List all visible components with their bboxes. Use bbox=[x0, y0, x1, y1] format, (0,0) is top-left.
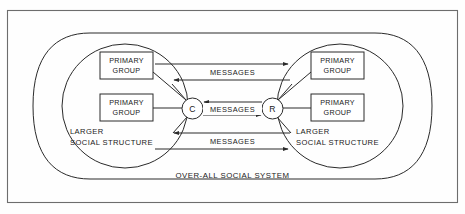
r-node-spoke-bottom bbox=[277, 117, 291, 133]
left-social-structure-label-line1: LARGER bbox=[70, 127, 104, 136]
right-primary-group-1-line2: GROUP bbox=[324, 66, 352, 75]
social-system-diagram: PRIMARY GROUP PRIMARY GROUP PRIMARY GROU… bbox=[0, 0, 465, 214]
c-node-spoke-top bbox=[172, 84, 186, 100]
right-social-structure-label-line2: SOCIAL STRUCTURE bbox=[296, 138, 379, 147]
left-social-structure-label-line2: SOCIAL STRUCTURE bbox=[70, 138, 153, 147]
right-primary-group-1-line1: PRIMARY bbox=[320, 56, 355, 65]
right-primary-group-2-line1: PRIMARY bbox=[320, 98, 355, 107]
recipient-node-label: R bbox=[269, 104, 275, 114]
channel-bottom-label: MESSAGES bbox=[210, 137, 255, 146]
left-primary-group-1-line2: GROUP bbox=[113, 66, 141, 75]
communicator-node-label: C bbox=[189, 104, 195, 114]
right-primary-group-2-line2: GROUP bbox=[324, 108, 352, 117]
left-primary-group-2-line2: GROUP bbox=[113, 108, 141, 117]
left-primary-group-1-line1: PRIMARY bbox=[109, 56, 144, 65]
left-primary-group-2-line1: PRIMARY bbox=[109, 98, 144, 107]
right-social-structure-label-line1: LARGER bbox=[296, 127, 330, 136]
channel-middle-label: MESSAGES bbox=[210, 105, 255, 114]
channel-top-label: MESSAGES bbox=[210, 68, 255, 77]
diagram-page: PRIMARY GROUP PRIMARY GROUP PRIMARY GROU… bbox=[0, 0, 465, 214]
over-all-social-system-label: OVER-ALL SOCIAL SYSTEM bbox=[176, 171, 290, 180]
left-group-1-connector bbox=[153, 72, 186, 100]
right-group-1-connector bbox=[278, 72, 311, 100]
